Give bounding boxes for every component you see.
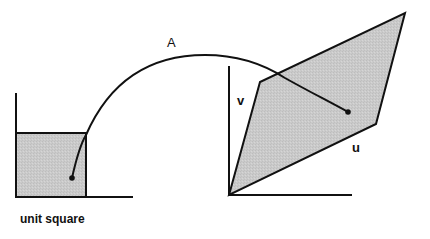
unit-square-group bbox=[16, 93, 133, 197]
linear-map-diagram: A v u unit square bbox=[0, 0, 430, 239]
parallelogram-group bbox=[229, 13, 405, 195]
source-point bbox=[69, 175, 75, 181]
unit-square-label: unit square bbox=[20, 212, 85, 226]
map-label: A bbox=[167, 35, 176, 50]
image-point bbox=[345, 109, 351, 115]
v-label: v bbox=[237, 93, 245, 108]
parallelogram bbox=[229, 13, 405, 195]
u-label: u bbox=[352, 140, 360, 155]
